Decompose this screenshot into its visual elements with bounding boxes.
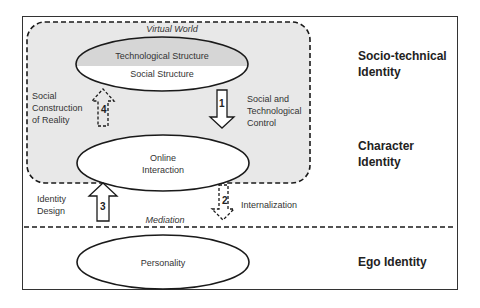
arrow-2-label: Internalization [241,199,297,211]
virtual-world-label: Virtual World [132,23,212,35]
arrow-4-number: 4 [101,102,107,118]
ego-identity-label: Ego Identity [358,254,427,270]
socio-technical-identity-label: Socio-technical Identity [358,48,447,80]
arrow-3-label: Identity Design [37,193,66,217]
arrow-2-number: 2 [222,193,228,209]
technological-structure-label: Technological Structure [92,50,232,62]
social-structure-label: Social Structure [92,68,232,80]
arrow-1-label: Social and Technological Control [247,93,302,129]
personality-label: Personality [113,257,213,269]
arrow-3-number: 3 [100,199,106,215]
arrow-4-label: Social Construction of Reality [32,90,83,126]
character-identity-label: Character Identity [358,138,414,170]
arrow-1-number: 1 [219,96,225,112]
mediation-label: Mediation [130,214,200,226]
online-interaction-label: Online Interaction [113,152,213,176]
